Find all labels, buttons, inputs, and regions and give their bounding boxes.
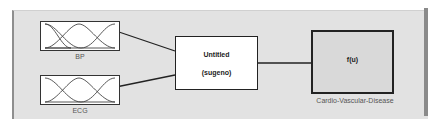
input-ecg-block[interactable] <box>40 75 120 105</box>
membership-functions-icon <box>41 76 119 104</box>
output-function: f(u) <box>313 56 392 63</box>
output-block[interactable]: f(u) <box>311 30 394 94</box>
input-bp-block[interactable] <box>40 21 120 51</box>
output-label: Cardio-Vascular-Disease <box>300 97 410 104</box>
membership-functions-icon <box>41 22 119 50</box>
input-ecg-label: ECG <box>40 107 120 114</box>
input-bp-label: BP <box>40 53 120 60</box>
system-title: Untitled <box>176 51 257 58</box>
system-type: (sugeno) <box>176 69 257 76</box>
fis-system-block[interactable]: Untitled (sugeno) <box>175 36 258 90</box>
